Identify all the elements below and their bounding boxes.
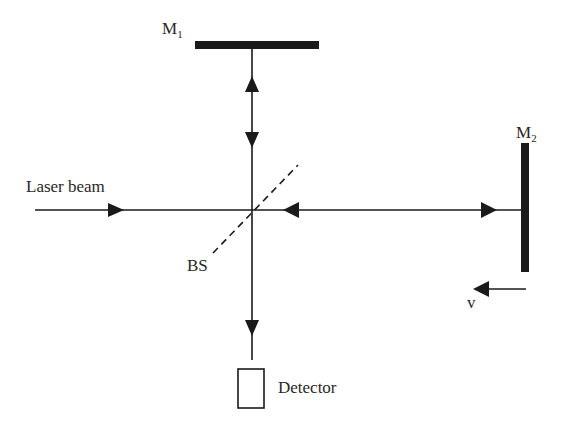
arrow-down-icon	[245, 132, 259, 148]
arrow-up-icon	[245, 76, 259, 92]
detector-box	[238, 369, 264, 408]
mirror-1-label: M1	[162, 20, 183, 40]
arrow-down-icon	[245, 320, 259, 336]
laser-beam-label: Laser beam	[26, 178, 105, 195]
interferometer-diagram	[0, 0, 567, 427]
mirror-2-label: M2	[516, 124, 537, 144]
arrow-left-icon	[283, 202, 299, 218]
arrow-right-icon	[108, 203, 124, 217]
beam-splitter-label: BS	[187, 257, 208, 274]
mirror-2-label-sub: 2	[531, 132, 537, 144]
detector-label: Detector	[278, 379, 337, 396]
mirror-1-label-sub: 1	[177, 28, 183, 40]
mirror-1-label-main: M	[162, 19, 177, 38]
mirror-2	[521, 143, 529, 272]
velocity-label: v	[467, 294, 476, 311]
arrow-right-icon	[481, 202, 497, 218]
mirror-2-label-main: M	[516, 123, 531, 142]
mirror-1	[195, 41, 319, 49]
